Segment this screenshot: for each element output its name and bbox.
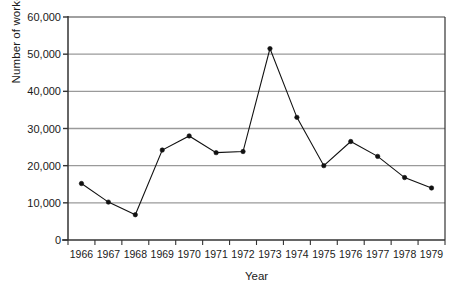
x-axis-tick-label: 1979: [420, 248, 443, 260]
line-chart: Number of workers 010,00020,00030,00040,…: [0, 0, 455, 296]
x-axis-tick-label: 1971: [204, 248, 227, 260]
data-point-marker: [133, 213, 137, 217]
x-axis-tick-label: 1973: [258, 248, 281, 260]
x-axis-tick-label: 1977: [366, 248, 389, 260]
data-point-marker: [268, 46, 272, 50]
data-point-marker: [349, 139, 353, 143]
x-axis-tick-label: 1978: [393, 248, 416, 260]
x-axis-tick-label: 1970: [177, 248, 200, 260]
x-axis-tick-label: 1974: [285, 248, 308, 260]
x-axis-tick-label: 1975: [312, 248, 335, 260]
data-point-marker: [295, 115, 299, 119]
x-axis-tick-label: 1967: [97, 248, 120, 260]
data-point-marker: [187, 134, 191, 138]
x-axis-tick-label: 1968: [124, 248, 147, 260]
data-point-marker: [106, 200, 110, 204]
x-axis-tick-label: 1966: [70, 248, 93, 260]
x-axis-tick-label: 1972: [231, 248, 254, 260]
data-point-marker: [322, 163, 326, 167]
data-point-marker: [160, 148, 164, 152]
data-point-marker: [241, 149, 245, 153]
x-axis-tick-label: 1969: [151, 248, 174, 260]
data-line-number-of-workers: [81, 49, 431, 215]
x-axis-title: Year: [68, 270, 445, 282]
data-point-marker: [375, 154, 379, 158]
data-point-marker: [402, 175, 406, 179]
data-point-marker: [429, 186, 433, 190]
data-point-marker: [79, 181, 83, 185]
data-point-marker: [214, 150, 218, 154]
x-axis-tick-label: 1976: [339, 248, 362, 260]
